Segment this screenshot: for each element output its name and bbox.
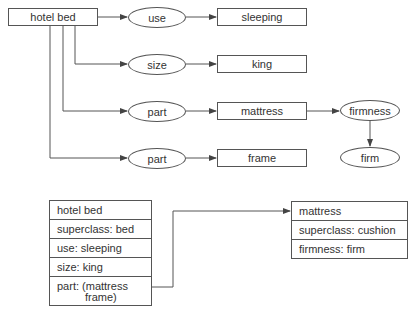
frame-row-use: use: sleeping [50,239,151,258]
node-value-firm: firm [340,147,400,168]
node-value-sleeping: sleeping [217,8,307,26]
node-hotel-bed: hotel bed [8,8,98,26]
node-value-mattress: mattress [217,102,307,120]
node-slot-part-mattress: part [128,101,186,122]
node-slot-firmness: firmness [340,100,400,121]
node-slot-use: use [128,7,186,28]
frame-row-name: hotel bed [50,201,151,220]
frame-row-part-line2: frame) [57,292,151,303]
frame-row-name: mattress [292,202,407,221]
frame-hotel-bed: hotel bed superclass: bed use: sleeping … [49,200,152,306]
node-value-frame: frame [217,149,307,167]
node-slot-size: size [128,54,186,75]
node-slot-part-frame: part [128,148,186,169]
frame-row-superclass: superclass: cushion [292,221,407,240]
frame-row-size: size: king [50,258,151,277]
frame-row-part: part: (mattress frame) [50,277,151,306]
node-value-king: king [217,55,307,73]
frame-row-firmness: firmness: firm [292,240,407,259]
frame-row-superclass: superclass: bed [50,220,151,239]
frame-mattress: mattress superclass: cushion firmness: f… [291,201,408,259]
